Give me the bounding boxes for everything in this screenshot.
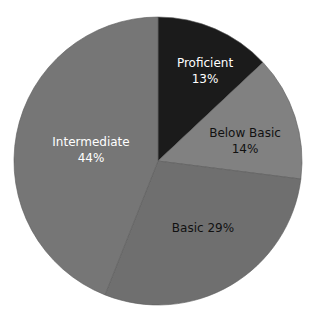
label-proficient-name: Proficient xyxy=(177,55,233,71)
label-below-basic: Below Basic 14% xyxy=(209,125,281,157)
label-intermediate-name: Intermediate xyxy=(52,134,129,150)
label-intermediate-pct: 44% xyxy=(52,150,129,166)
pie-chart xyxy=(0,0,314,321)
label-proficient: Proficient 13% xyxy=(177,55,233,87)
label-below-basic-name: Below Basic xyxy=(209,125,281,141)
label-basic: Basic 29% xyxy=(172,220,234,236)
label-below-basic-pct: 14% xyxy=(209,141,281,157)
label-basic-text: Basic 29% xyxy=(172,220,234,236)
label-intermediate: Intermediate 44% xyxy=(52,134,129,166)
label-proficient-pct: 13% xyxy=(177,71,233,87)
